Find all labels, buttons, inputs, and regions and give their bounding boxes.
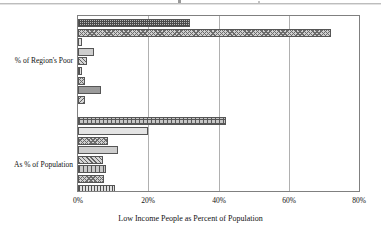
bar <box>78 67 82 75</box>
gridline <box>148 16 149 191</box>
bar <box>78 96 85 104</box>
gridline <box>219 16 220 191</box>
bar <box>78 117 226 125</box>
bar <box>78 38 82 46</box>
bar <box>78 185 115 192</box>
bar <box>78 19 190 27</box>
gridline <box>359 16 360 191</box>
scan-speck <box>178 0 181 3</box>
x-axis-tick-label: 20% <box>141 196 155 205</box>
bar <box>78 175 104 183</box>
bar <box>78 86 101 94</box>
bar <box>78 77 85 85</box>
x-axis-tick-label: 60% <box>282 196 296 205</box>
bar <box>78 137 108 145</box>
bar <box>78 127 148 135</box>
plot-area <box>77 15 360 192</box>
x-axis-tick-label: 40% <box>212 196 226 205</box>
y-axis-category-label: % of Region's Poor <box>15 56 73 65</box>
bar <box>78 48 94 56</box>
y-axis-category-label: As % of Population <box>14 160 73 169</box>
chart-container: % of Region's PoorAs % of Population 0%2… <box>0 0 381 234</box>
bar <box>78 156 103 164</box>
bar <box>78 146 118 154</box>
bar <box>78 165 106 173</box>
scan-speck <box>258 1 260 3</box>
x-axis-tick-label: 80% <box>352 196 366 205</box>
bar <box>78 29 331 37</box>
x-axis-tick-label: 0% <box>73 196 83 205</box>
gridline <box>289 16 290 191</box>
x-axis-title: Low Income People as Percent of Populati… <box>0 214 381 223</box>
bar <box>78 57 87 65</box>
scan-artifact-line-secondary <box>0 4 381 5</box>
